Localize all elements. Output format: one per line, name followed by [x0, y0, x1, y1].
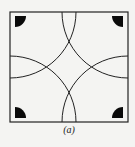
figure-caption: (a) [0, 124, 135, 135]
square-frame [10, 12, 128, 122]
corner-disk-top-left [15, 16, 26, 27]
corner-disk-bottom-right [112, 107, 123, 118]
corner-disk-top-right [112, 16, 123, 27]
corner-disk-bottom-left [15, 107, 26, 118]
